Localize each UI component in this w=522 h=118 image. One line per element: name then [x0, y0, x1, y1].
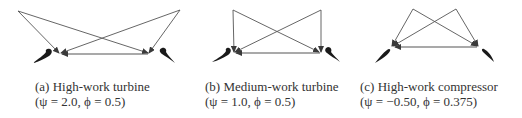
panel-c-parameters: (ψ = −0.50, ϕ = 0.375) [360, 94, 498, 109]
panel-a-parameters: (ψ = 2.0, ϕ = 0.5) [35, 94, 150, 109]
panel-c-title: (c) High-work compressor [360, 79, 498, 94]
panel-a-exit-relative-velocity-arrow [149, 10, 180, 53]
panel-a-left-blade-icon [33, 49, 52, 63]
panel-b-caption: (b) Medium-work turbine (ψ = 1.0, ϕ = 0.… [205, 79, 339, 109]
panel-b-right-blade-icon [325, 47, 340, 62]
panel-a-velocity-triangles [18, 10, 180, 54]
panel-b-exit-absolute-velocity-arrow [235, 10, 321, 52]
panel-c-left-blade-icon [375, 49, 390, 63]
panel-c-velocity-triangles [392, 9, 478, 47]
panel-c-right-blade-icon [482, 49, 494, 62]
panel-b-title: (b) Medium-work turbine [205, 79, 339, 94]
panel-a-caption: (a) High-work turbine (ψ = 2.0, ϕ = 0.5) [35, 79, 150, 109]
panel-b-inlet-absolute-velocity-arrow [233, 10, 234, 52]
panel-b-parameters: (ψ = 1.0, ϕ = 0.5) [205, 94, 339, 109]
panel-b-left-blade-icon [212, 48, 231, 62]
panel-b-velocity-triangles [233, 10, 321, 53]
panel-b-inlet-relative-velocity-arrow [233, 10, 319, 52]
panel-a-title: (a) High-work turbine [35, 79, 150, 94]
panel-a-inlet-relative-velocity-arrow [18, 11, 148, 53]
panel-a-right-blade-icon [160, 48, 175, 63]
panel-a-exit-absolute-velocity-arrow [61, 10, 180, 53]
panel-c-caption: (c) High-work compressor (ψ = −0.50, ϕ =… [360, 79, 498, 109]
